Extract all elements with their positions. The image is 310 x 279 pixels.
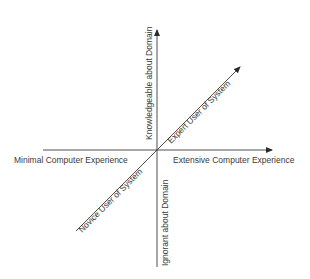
label-ignorant-about-domain: Ignorant about Domain	[160, 179, 170, 266]
label-knowledgeable-about-domain: Knowledgeable about Domain	[144, 26, 154, 140]
label-minimal-computer-experience: Minimal Computer Experience	[14, 155, 128, 165]
label-extensive-computer-experience: Extensive Computer Experience	[173, 155, 295, 165]
user-dimensions-diagram: Minimal Computer Experience Extensive Co…	[0, 0, 310, 279]
label-novice-user-of-system: Novice User of System	[76, 166, 144, 234]
label-expert-user-of-system: Expert User of System	[165, 78, 232, 145]
